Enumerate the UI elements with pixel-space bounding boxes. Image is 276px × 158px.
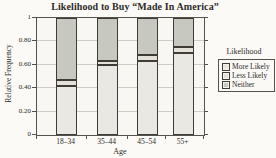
y-tick-mark <box>32 64 37 65</box>
bar-55+ <box>173 18 194 135</box>
bar-segment-neither <box>173 18 194 47</box>
bar-segment-neither <box>56 18 77 80</box>
bar-segment-less-likely <box>56 80 77 86</box>
y-tick-mark <box>204 87 208 88</box>
plot-area <box>36 17 205 136</box>
x-tick-mark <box>36 136 37 139</box>
y-tick-mark <box>32 17 37 18</box>
stacked-bar-chart: Likelihood to Buy “Made In America” Rela… <box>0 0 276 158</box>
bar-18–34 <box>56 18 77 135</box>
y-tick-label: 0.40 <box>0 83 31 91</box>
legend-item-more-likely: More Likely <box>222 62 272 71</box>
x-tick-mark <box>165 136 166 139</box>
bar-segment-less-likely <box>137 55 158 61</box>
y-tick-mark <box>32 87 37 88</box>
y-tick-mark <box>204 134 208 135</box>
bar-segment-more-likely <box>137 61 158 135</box>
bar-45–54 <box>137 18 158 135</box>
bar-segment-more-likely <box>173 53 194 135</box>
bar-segment-more-likely <box>56 86 77 135</box>
legend-label: Neither <box>232 80 255 89</box>
x-axis-title: Age <box>0 147 240 156</box>
legend-swatch-more-likely-icon <box>222 63 230 71</box>
x-tick-label: 55+ <box>161 137 205 146</box>
legend-item-neither: Neither <box>222 80 272 89</box>
x-tick-mark <box>86 136 87 139</box>
legend-swatch-less-likely-icon <box>222 72 230 80</box>
x-tick-mark <box>203 136 204 139</box>
y-tick-label: 0.80 <box>0 36 31 44</box>
legend-swatch-neither-icon <box>222 81 230 89</box>
x-tick-label: 35–44 <box>85 137 129 146</box>
bar-segment-neither <box>97 18 118 61</box>
y-tick-mark <box>204 40 208 41</box>
y-tick-label: 0.20 <box>0 107 31 115</box>
legend: More Likely Less Likely Neither <box>218 59 275 92</box>
x-tick-label: 18–34 <box>44 137 88 146</box>
y-tick-mark <box>204 64 208 65</box>
y-tick-mark <box>204 111 208 112</box>
legend-item-less-likely: Less Likely <box>222 71 272 80</box>
bar-segment-more-likely <box>97 65 118 135</box>
y-axis-title: Relative Frequency <box>4 36 13 112</box>
legend-title: Likelihood <box>214 47 274 56</box>
bar-segment-less-likely <box>97 61 118 65</box>
y-tick-mark <box>32 134 37 135</box>
y-tick-label: 0 <box>0 130 31 138</box>
legend-label: Less Likely <box>232 71 267 80</box>
bar-segment-less-likely <box>173 47 194 53</box>
bar-35–44 <box>97 18 118 135</box>
chart-title: Likelihood to Buy “Made In America” <box>6 1 264 12</box>
y-tick-mark <box>32 111 37 112</box>
x-tick-mark <box>127 136 128 139</box>
y-tick-mark <box>204 17 208 18</box>
y-tick-label: 1 <box>0 13 31 21</box>
legend-label: More Likely <box>232 62 270 71</box>
bar-segment-neither <box>137 18 158 55</box>
y-tick-label: 0.60 <box>0 60 31 68</box>
y-tick-mark <box>32 40 37 41</box>
